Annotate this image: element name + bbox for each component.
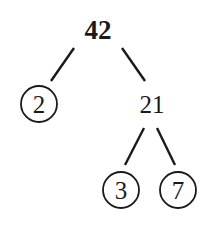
edge-21-to-7 [157, 128, 175, 165]
node-label-3: 3 [115, 177, 128, 204]
node-label-7: 7 [172, 177, 185, 204]
prime-node-2: 2 [21, 86, 57, 122]
edge-42-to-21 [122, 48, 145, 81]
root-node-42: 42 [85, 15, 112, 45]
node-label-2: 2 [33, 91, 46, 118]
composite-node-21: 21 [140, 91, 165, 118]
prime-node-3: 3 [103, 172, 139, 208]
edge-21-to-3 [125, 128, 144, 165]
prime-node-7: 7 [160, 172, 196, 208]
edge-42-to-2 [51, 48, 74, 81]
factor-tree-diagram: 42 2 21 3 7 [0, 0, 213, 230]
